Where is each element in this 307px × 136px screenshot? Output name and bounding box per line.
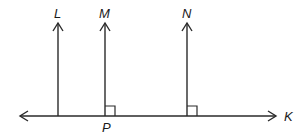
right-angle-mark-n-icon [187, 106, 197, 116]
label-m: M [99, 6, 110, 21]
label-k: K [284, 109, 294, 124]
label-n: N [182, 6, 192, 21]
ray-n [182, 23, 197, 116]
geometry-diagram: L M N K P [0, 0, 307, 136]
ray-l [53, 23, 63, 116]
label-p: P [102, 120, 111, 135]
right-angle-mark-p-icon [105, 106, 115, 116]
label-l: L [54, 6, 61, 21]
ray-m [100, 23, 115, 116]
